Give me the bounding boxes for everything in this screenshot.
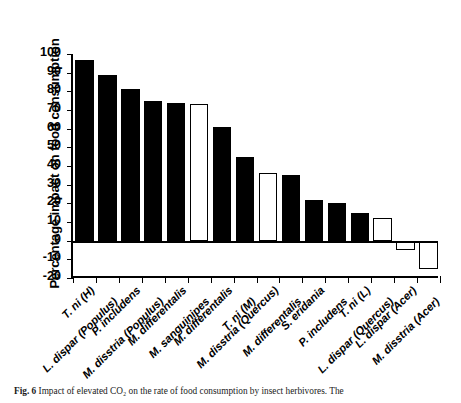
y-axis-tick-label: 20 bbox=[47, 195, 61, 208]
y-axis-tick-label: 40 bbox=[47, 158, 61, 171]
figure-number: Fig. 6 bbox=[14, 386, 36, 396]
y-axis-tick-label: 100 bbox=[40, 46, 61, 59]
y-axis-tick-label: -20 bbox=[43, 270, 61, 283]
bar bbox=[144, 101, 162, 241]
bar bbox=[373, 218, 391, 240]
y-axis-tick-label: 80 bbox=[47, 83, 61, 96]
y-axis-tick: 70 bbox=[67, 110, 73, 111]
y-axis-tick: 10 bbox=[67, 222, 73, 223]
caption-text: Impact of elevated CO₂ on the rate of fo… bbox=[39, 386, 344, 396]
y-axis-tick-label: 50 bbox=[47, 139, 61, 152]
figure-panel: Percentage impact on food consumption 10… bbox=[0, 0, 461, 403]
y-axis-tick-label: 10 bbox=[47, 214, 61, 227]
y-axis-tick-label: 60 bbox=[47, 121, 61, 134]
x-axis-labels: T. ni (H)L. dispar (Populus)P. includens… bbox=[0, 282, 461, 377]
y-axis-tick: 20 bbox=[67, 203, 73, 204]
bar bbox=[282, 175, 300, 240]
y-axis-tick-label: 30 bbox=[47, 177, 61, 190]
y-axis-tick-label: -10 bbox=[43, 251, 61, 264]
y-axis-tick: 30 bbox=[67, 185, 73, 186]
bar bbox=[190, 104, 208, 240]
y-axis-tick: -10 bbox=[67, 259, 73, 260]
y-axis-tick: 60 bbox=[67, 129, 73, 130]
y-axis-tick: 90 bbox=[67, 73, 73, 74]
y-axis-tick-label: 0 bbox=[54, 233, 61, 246]
y-axis-tick-label: 70 bbox=[47, 102, 61, 115]
bar bbox=[121, 89, 139, 240]
bar bbox=[259, 173, 277, 240]
y-axis-tick-label: 90 bbox=[47, 65, 61, 78]
y-axis-tick: 40 bbox=[67, 166, 73, 167]
figure-caption: Fig. 6 Impact of elevated CO₂ on the rat… bbox=[14, 386, 454, 397]
y-axis-tick: 80 bbox=[67, 91, 73, 92]
bar bbox=[167, 103, 185, 241]
y-axis-tick: 50 bbox=[67, 147, 73, 148]
bar bbox=[75, 60, 93, 241]
bar bbox=[98, 75, 116, 241]
y-axis-tick: 100 bbox=[67, 54, 73, 55]
